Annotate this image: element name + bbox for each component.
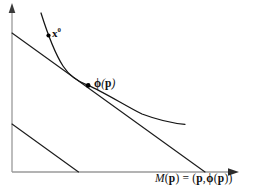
budget-line-tangent [12,33,205,172]
indifference-curve [41,13,185,124]
y-axis [9,3,16,172]
budget-line-lower [12,124,79,172]
label-phi-close-paren: ) [111,77,115,89]
x-axis-label-rparen2: ) [228,172,232,184]
x-axis-label: M(p)=(p,ϕ(p)) [155,173,232,185]
label-initial-point: x0 [52,27,61,39]
y-axis-arrowhead-icon [9,3,16,13]
x-axis-label-p2: p [196,172,203,184]
label-tangency-point: ϕ(p) [94,78,115,90]
marker-point-phi-p [86,83,91,88]
label-initial-point-superscript: 0 [58,26,61,33]
marker-point-x0 [46,33,50,37]
x-axis-label-equals: = [182,172,189,184]
figure-canvas [0,0,258,191]
indifference-curve-figure: x0 ϕ(p) M(p)=(p,ϕ(p)) [0,0,258,191]
x-axis-label-rparen1: ) [175,172,179,184]
x-axis-label-phi: ϕ [206,172,213,184]
x-axis-label-m: M [155,172,165,184]
